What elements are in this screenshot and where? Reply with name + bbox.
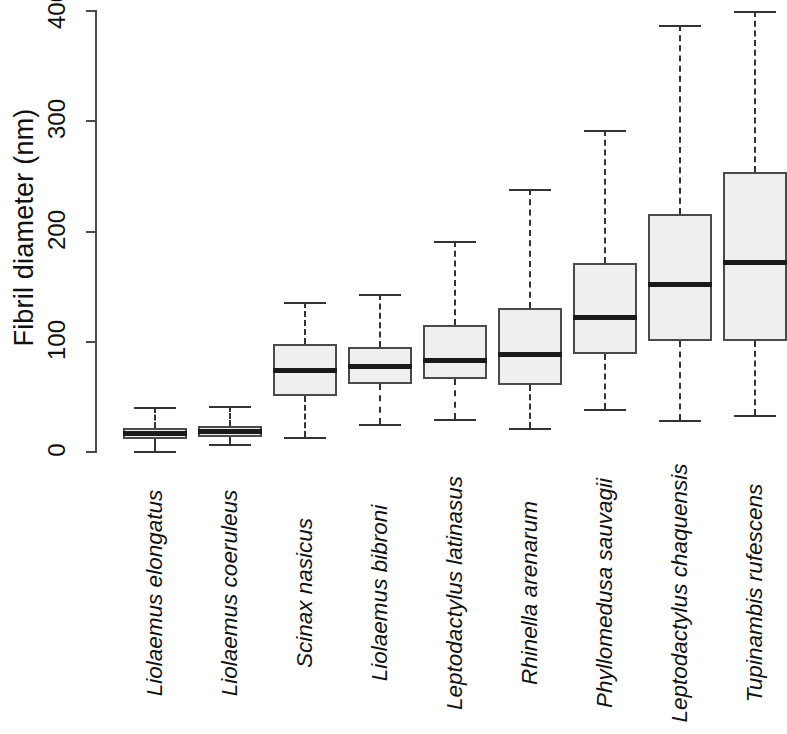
upper-whisker-cap <box>134 407 176 409</box>
upper-whisker-cap <box>434 241 476 243</box>
median-line <box>648 282 712 287</box>
iqr-box <box>648 214 712 341</box>
median-line <box>348 364 412 369</box>
box-plot-group <box>423 0 487 470</box>
upper-whisker <box>154 407 156 428</box>
upper-whisker <box>529 189 531 308</box>
x-axis-tick-label: Leptodactylus chaquensis <box>665 470 695 732</box>
upper-whisker <box>604 130 606 263</box>
lower-whisker <box>379 384 381 425</box>
upper-whisker <box>754 11 756 172</box>
median-line <box>123 431 187 436</box>
lower-whisker-cap <box>734 415 776 417</box>
upper-whisker-cap <box>509 189 551 191</box>
lower-whisker-cap <box>284 437 326 439</box>
plot-area: Liolaemus elongatusLiolaemus coeruleusSc… <box>0 0 766 470</box>
lower-whisker-cap <box>209 444 251 446</box>
median-line <box>273 368 337 373</box>
lower-whisker <box>229 437 231 445</box>
box-plot-group <box>723 0 787 470</box>
lower-whisker <box>604 354 606 409</box>
x-axis-tick-label: Liolaemus bibroni <box>365 470 395 732</box>
x-axis-tick-label: Phyllomedusa sauvagii <box>590 470 620 732</box>
iqr-box <box>498 308 562 385</box>
upper-whisker <box>304 302 306 344</box>
median-line <box>723 260 787 265</box>
lower-whisker-cap <box>584 409 626 411</box>
box-plot-group <box>573 0 637 470</box>
upper-whisker-cap <box>734 11 776 13</box>
box-plot-group <box>648 0 712 470</box>
upper-whisker-cap <box>359 294 401 296</box>
upper-whisker-cap <box>284 302 326 304</box>
lower-whisker-cap <box>509 428 551 430</box>
median-line <box>498 352 562 357</box>
box-plot-group <box>498 0 562 470</box>
x-axis-tick-label: Leptodactylus latinasus <box>440 470 470 732</box>
upper-whisker <box>679 25 681 214</box>
median-line <box>423 358 487 363</box>
lower-whisker <box>304 396 306 437</box>
iqr-box <box>723 172 787 341</box>
x-axis-tick-label: Scinax nasicus <box>290 470 320 732</box>
upper-whisker <box>229 406 231 426</box>
median-line <box>198 429 262 434</box>
x-axis-tick-label: Rhinella arenarum <box>515 470 545 732</box>
upper-whisker <box>379 294 381 347</box>
lower-whisker <box>679 341 681 420</box>
lower-whisker <box>154 439 156 451</box>
upper-whisker-cap <box>659 25 701 27</box>
iqr-box <box>573 263 637 353</box>
lower-whisker-cap <box>359 424 401 426</box>
box-plot-group <box>348 0 412 470</box>
lower-whisker-cap <box>434 419 476 421</box>
box-plot-group <box>123 0 187 470</box>
x-axis-tick-label: Liolaemus coeruleus <box>215 470 245 732</box>
x-axis-tick-label: Tupinambis rufescens <box>740 470 770 732</box>
lower-whisker-cap <box>134 451 176 453</box>
median-line <box>573 315 637 320</box>
lower-whisker-cap <box>659 420 701 422</box>
lower-whisker <box>454 379 456 419</box>
upper-whisker-cap <box>584 130 626 132</box>
lower-whisker <box>754 341 756 415</box>
box-plot-group <box>198 0 262 470</box>
upper-whisker <box>454 241 456 325</box>
box-plot-group <box>273 0 337 470</box>
lower-whisker <box>529 385 531 428</box>
iqr-box <box>423 325 487 379</box>
upper-whisker-cap <box>209 406 251 408</box>
x-axis-tick-label: Liolaemus elongatus <box>140 470 170 732</box>
